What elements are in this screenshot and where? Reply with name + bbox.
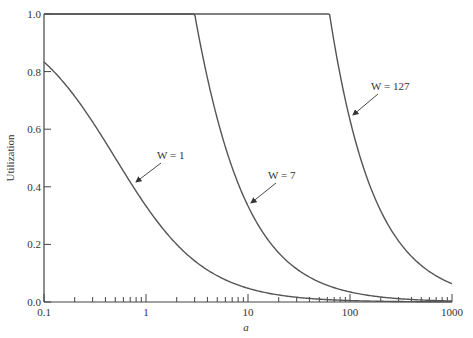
x-tick-label: 0.1 <box>37 306 51 318</box>
y-tick-label: 1.0 <box>27 8 41 20</box>
label-w127: W = 127 <box>371 80 410 92</box>
curve-w1 <box>44 62 452 302</box>
label-w7: W = 7 <box>268 169 296 181</box>
x-tick-label: 10 <box>243 306 255 318</box>
y-ticks: 0.00.20.40.60.81.0 <box>27 8 51 308</box>
x-tick-label: 1 <box>143 306 149 318</box>
arrow-w1 <box>136 163 161 182</box>
y-tick-label: 0.6 <box>27 123 41 135</box>
y-tick-label: 0.4 <box>27 181 41 193</box>
arrow-w127 <box>353 94 378 115</box>
curve-w7 <box>44 14 452 301</box>
y-tick-label: 0.2 <box>27 238 41 250</box>
x-ticks: 0.11101001000 <box>37 294 463 318</box>
x-axis-title: a <box>243 321 249 333</box>
y-axis-title: Utilization <box>4 134 16 182</box>
x-tick-label: 100 <box>342 306 359 318</box>
curve-w127 <box>44 14 452 284</box>
utilization-chart: 0.00.20.40.60.81.0 0.11101001000 W = 1 W… <box>0 0 473 338</box>
y-tick-label: 0.8 <box>27 66 41 78</box>
arrow-w7 <box>251 183 276 203</box>
label-w1: W = 1 <box>157 149 184 161</box>
x-tick-label: 1000 <box>441 306 464 318</box>
